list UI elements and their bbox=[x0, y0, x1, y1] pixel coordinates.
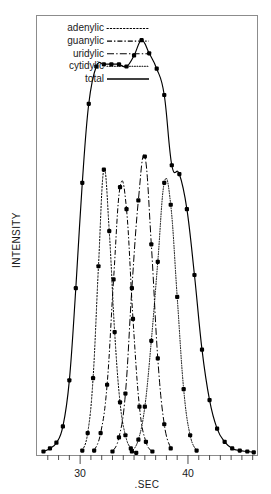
data-point-marker bbox=[207, 398, 211, 402]
data-point-marker bbox=[102, 168, 106, 172]
data-point-marker bbox=[92, 449, 96, 453]
data-point-marker bbox=[245, 449, 249, 453]
data-point-marker bbox=[105, 383, 109, 387]
data-point-marker bbox=[118, 185, 122, 189]
data-point-marker bbox=[123, 391, 127, 395]
data-point-marker bbox=[136, 438, 140, 442]
data-point-marker bbox=[188, 433, 192, 437]
data-point-marker bbox=[195, 449, 199, 453]
data-point-marker bbox=[150, 449, 154, 453]
data-point-marker bbox=[137, 405, 141, 409]
data-point-marker bbox=[91, 376, 95, 380]
data-point-marker bbox=[149, 242, 153, 246]
data-point-marker bbox=[155, 67, 159, 71]
data-point-marker bbox=[230, 446, 234, 450]
data-point-marker bbox=[162, 422, 166, 426]
data-point-marker bbox=[156, 260, 160, 264]
data-point-marker bbox=[144, 440, 148, 444]
data-point-marker bbox=[156, 356, 160, 360]
data-point-marker bbox=[162, 181, 166, 185]
data-point-marker bbox=[124, 207, 128, 211]
data-point-marker bbox=[110, 449, 114, 453]
data-point-marker bbox=[131, 317, 135, 321]
data-point-marker bbox=[109, 62, 113, 66]
data-point-marker bbox=[185, 207, 189, 211]
data-point-marker bbox=[134, 451, 138, 455]
data-point-marker bbox=[74, 286, 78, 290]
data-point-marker bbox=[215, 427, 219, 431]
data-point-marker bbox=[113, 330, 117, 334]
data-point-marker bbox=[130, 286, 134, 290]
x-tick-label: 30 bbox=[74, 467, 86, 479]
data-point-marker bbox=[41, 449, 45, 453]
data-point-marker bbox=[86, 431, 90, 435]
legend-label-adenylic: adenylic bbox=[67, 22, 104, 33]
data-point-marker bbox=[252, 450, 256, 454]
data-point-marker bbox=[162, 93, 166, 97]
data-point-marker bbox=[175, 295, 179, 299]
data-point-marker bbox=[136, 198, 140, 202]
legend-label-total: total bbox=[85, 73, 104, 84]
y-axis-label: INTENSITY bbox=[11, 212, 22, 268]
data-point-marker bbox=[130, 449, 134, 453]
data-point-marker bbox=[118, 400, 122, 404]
data-point-marker bbox=[80, 449, 84, 453]
legend-label-cytidylic: cytidylic bbox=[69, 60, 104, 71]
data-point-marker bbox=[54, 441, 58, 445]
data-point-marker bbox=[192, 273, 196, 277]
data-point-marker bbox=[48, 446, 52, 450]
data-point-marker bbox=[67, 378, 71, 382]
data-point-marker bbox=[143, 154, 147, 158]
data-point-marker bbox=[80, 181, 84, 185]
data-point-marker bbox=[117, 62, 121, 66]
legend-label-uridylic: uridylic bbox=[73, 48, 104, 59]
data-point-marker bbox=[123, 433, 127, 437]
data-point-marker bbox=[182, 387, 186, 391]
legend-label-guanylic: guanylic bbox=[67, 35, 104, 46]
data-point-marker bbox=[99, 431, 103, 435]
chromatogram-figure: INTENSITY .SEC 3040 adenylicguanylicurid… bbox=[0, 0, 271, 494]
data-point-marker bbox=[96, 264, 100, 268]
data-point-marker bbox=[200, 348, 204, 352]
data-point-marker bbox=[238, 449, 242, 453]
figure-background bbox=[0, 0, 271, 494]
data-point-marker bbox=[61, 424, 65, 428]
data-point-marker bbox=[143, 405, 147, 409]
data-point-marker bbox=[107, 229, 111, 233]
data-point-marker bbox=[223, 440, 227, 444]
x-axis-label: .SEC bbox=[135, 479, 160, 490]
data-point-marker bbox=[117, 435, 121, 439]
data-point-marker bbox=[169, 446, 173, 450]
x-tick-label: 40 bbox=[182, 467, 194, 479]
data-point-marker bbox=[169, 203, 173, 207]
data-point-marker bbox=[170, 163, 174, 167]
data-point-marker bbox=[149, 339, 153, 343]
data-point-marker bbox=[177, 172, 181, 176]
data-point-marker bbox=[111, 277, 115, 281]
data-point-marker bbox=[87, 102, 91, 106]
